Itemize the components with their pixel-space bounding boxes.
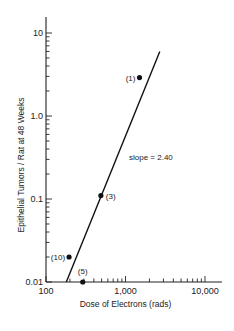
data-point (66, 254, 71, 259)
data-point (80, 279, 85, 284)
x-axis-label: Dose of Electrons (rads) (80, 299, 172, 309)
y-tick-label: 1.0 (30, 111, 43, 121)
fit-line (66, 51, 159, 282)
data-point-label: (3) (106, 192, 116, 201)
x-tick-label: 10,000 (191, 286, 219, 296)
x-tick-label: 100 (38, 286, 53, 296)
x-tick-label: 1,000 (114, 286, 137, 296)
data-point-label: (1) (126, 74, 136, 83)
data-point-label: (10) (51, 253, 66, 262)
dose-response-chart: 0.010.11.0101001,00010,000Dose of Electr… (0, 0, 234, 331)
y-tick-label: 10 (33, 28, 43, 38)
data-point (137, 75, 142, 80)
y-axis-label: Epithelial Tumors / Rat at 48 Weeks (16, 98, 26, 233)
data-point-label: (5) (78, 267, 88, 276)
slope-annotation: slope = 2.40 (129, 153, 173, 162)
y-tick-label: 0.1 (30, 194, 43, 204)
data-point (98, 193, 103, 198)
